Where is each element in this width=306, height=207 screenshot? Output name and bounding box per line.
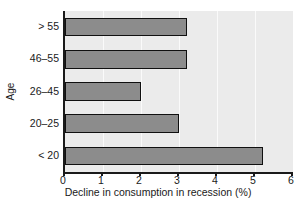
plot-area [63,11,293,174]
bar [65,50,187,69]
x-axis-tick-label: 4 [200,174,230,186]
x-axis-tick-label: 6 [276,174,306,186]
y-axis-tick-label: 46–55 [0,52,59,64]
y-axis-tick-label: 20–25 [0,117,59,129]
bar [65,114,179,133]
y-axis-tick-label: > 55 [0,20,59,32]
bar-chart-figure: Age < 2020–2526–4546–55> 55 0123456 Decl… [0,0,306,207]
bar [65,147,263,166]
bar [65,18,187,37]
x-axis-tick-label: 2 [124,174,154,186]
bar-series [65,11,293,172]
x-axis-tick-label: 5 [238,174,268,186]
x-axis-tick-label: 3 [162,174,192,186]
x-axis-tick-label: 0 [48,174,78,186]
x-axis-title: Decline in consumption in recession (%) [24,186,292,198]
bar [65,82,141,101]
y-axis-tick-label: < 20 [0,149,59,161]
y-axis-tick-label: 26–45 [0,85,59,97]
x-axis-tick-label: 1 [86,174,116,186]
